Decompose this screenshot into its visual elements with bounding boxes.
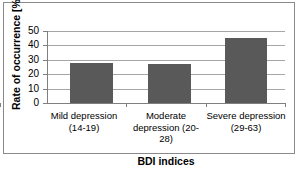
x-category-label-moderate-line2: depression (20- <box>126 122 206 134</box>
y-tick-mark-20 <box>43 74 47 75</box>
y-tick-mark-10 <box>43 89 47 90</box>
bar-moderate-depression <box>148 64 191 103</box>
y-tick-label-30: 30 <box>9 55 39 65</box>
x-tick-mark-1 <box>126 103 127 107</box>
y-axis-line <box>47 31 48 104</box>
x-tick-mark-3 <box>206 103 207 107</box>
x-category-label-severe: Severe depression (29-63) <box>205 110 287 133</box>
x-category-label-mild-line1: Mild depression <box>44 110 124 122</box>
x-tick-mark-2 <box>0 103 1 107</box>
bar-severe-depression <box>225 38 267 103</box>
bar-chart-figure: Rate of occurrence [%] 50 40 30 20 10 0 … <box>0 0 298 172</box>
y-tick-mark-40 <box>43 45 47 46</box>
x-category-label-mild-line2: (14-19) <box>44 122 124 134</box>
y-tick-mark-30 <box>43 60 47 61</box>
x-category-label-moderate-line1: Moderate <box>126 110 206 122</box>
y-tick-label-40: 40 <box>9 40 39 50</box>
bar-mild-depression <box>70 63 113 103</box>
y-tick-label-10: 10 <box>9 84 39 94</box>
y-tick-label-20: 20 <box>9 69 39 79</box>
x-tick-mark-4 <box>285 103 286 107</box>
x-category-label-severe-line1: Severe depression <box>205 110 287 122</box>
x-axis-line <box>47 103 286 104</box>
y-tick-label-0: 0 <box>9 98 39 108</box>
y-tick-mark-0 <box>43 103 47 104</box>
x-category-label-mild: Mild depression (14-19) <box>44 110 124 133</box>
x-axis-title: BDI indices <box>47 155 285 167</box>
x-category-label-severe-line2: (29-63) <box>205 122 287 134</box>
y-tick-label-50: 50 <box>9 26 39 36</box>
x-category-label-moderate-line3: 28) <box>126 133 206 145</box>
y-tick-mark-50 <box>43 31 47 32</box>
plot-area <box>47 31 285 103</box>
gridline-50 <box>47 31 285 32</box>
x-category-label-moderate: Moderate depression (20- 28) <box>126 110 206 145</box>
